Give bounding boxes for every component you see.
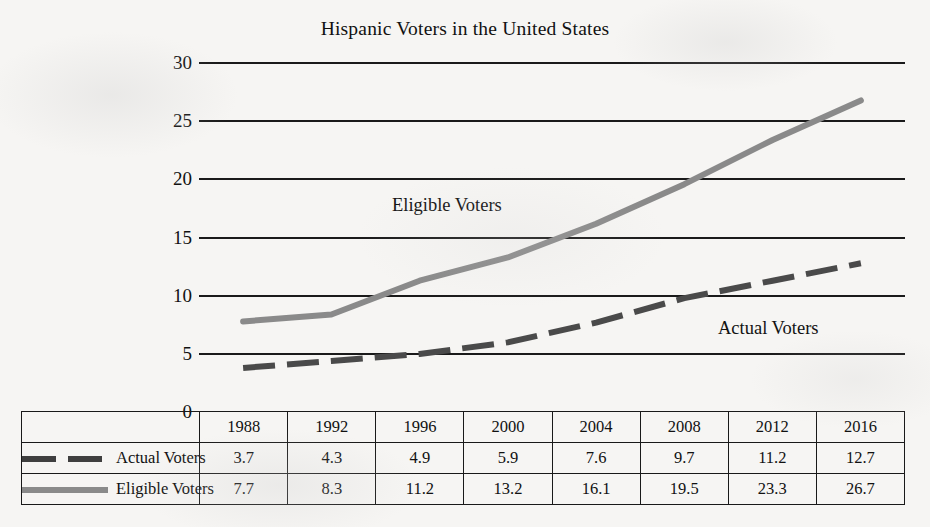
table-row-actual-voters: Actual Voters 3.7 4.3 4.9 5.9 7.6 9.7 11… [22,443,905,474]
table-header-2004: 2004 [552,412,640,443]
legend-label-eligible-voters: Eligible Voters [116,480,214,499]
cell-eligible-1992: 8.3 [288,474,376,505]
cell-actual-1992: 4.3 [288,443,376,474]
table-header-1996: 1996 [376,412,464,443]
table-header-row: 1988 1992 1996 2000 2004 2008 2012 2016 [22,412,905,443]
cell-actual-2008: 9.7 [640,443,728,474]
legend-item-actual-voters: Actual Voters [22,443,200,474]
table-header-1988: 1988 [200,412,288,443]
cell-actual-1996: 4.9 [376,443,464,474]
cell-actual-2004: 7.6 [552,443,640,474]
table-header-1992: 1992 [288,412,376,443]
dashed-line-swatch-icon [22,456,108,462]
legend-item-eligible-voters: Eligible Voters [22,474,200,505]
cell-eligible-2004: 16.1 [552,474,640,505]
table-row-eligible-voters: Eligible Voters 7.7 8.3 11.2 13.2 16.1 1… [22,474,905,505]
cell-eligible-2000: 13.2 [464,474,552,505]
data-table-container: 1988 1992 1996 2000 2004 2008 2012 2016 … [21,411,905,505]
annotation-actual-voters: Actual Voters [718,318,819,339]
legend-label-actual-voters: Actual Voters [116,449,206,468]
table-header-2012: 2012 [728,412,816,443]
cell-actual-2000: 5.9 [464,443,552,474]
data-table: 1988 1992 1996 2000 2004 2008 2012 2016 … [21,411,905,505]
solid-line-swatch-icon [22,487,108,493]
hispanic-voters-line-chart: Hispanic Voters in the United States 30 … [0,0,930,527]
table-header-2008: 2008 [640,412,728,443]
cell-actual-1988: 3.7 [200,443,288,474]
cell-actual-2012: 11.2 [728,443,816,474]
table-corner-cell [22,412,200,443]
table-header-2000: 2000 [464,412,552,443]
cell-eligible-2012: 23.3 [728,474,816,505]
cell-eligible-1996: 11.2 [376,474,464,505]
cell-eligible-2008: 19.5 [640,474,728,505]
cell-actual-2016: 12.7 [816,443,904,474]
table-header-2016: 2016 [816,412,904,443]
eligible-voters-line [243,100,861,321]
annotation-eligible-voters: Eligible Voters [392,195,502,216]
cell-eligible-2016: 26.7 [816,474,904,505]
